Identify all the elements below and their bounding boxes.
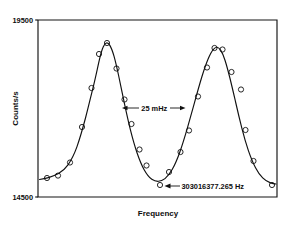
data-point [243,127,248,132]
y-axis-max-label: 19500 [12,16,33,25]
data-point-markers [44,40,274,187]
fringe-curve [40,43,277,184]
arrow-head-pointer [165,184,171,189]
arrow-head-right [180,106,186,110]
data-point [238,87,243,92]
data-point [229,69,234,74]
frequency-label: 303016377.265 Hz [182,182,245,191]
chart-canvas: 25 mHz 303016377.265 Hz 19500 14500 Coun… [0,0,293,226]
y-axis-min-label: 14500 [12,193,33,202]
y-axis-title: Counts/s [11,91,20,126]
data-point [129,121,134,126]
data-point [157,182,162,187]
frequency-annotation: 303016377.265 Hz [165,182,245,191]
x-axis-title: Frequency [138,209,179,218]
data-point [137,147,142,152]
linewidth-annotation: 25 mHz [122,104,186,113]
data-point [144,163,149,168]
figure-container: 25 mHz 303016377.265 Hz 19500 14500 Coun… [0,0,293,226]
linewidth-label: 25 mHz [141,104,167,113]
